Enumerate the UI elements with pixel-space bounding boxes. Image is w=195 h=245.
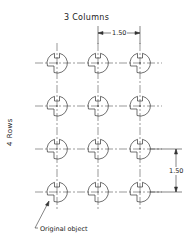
columns-label: 3 Columns bbox=[64, 13, 109, 22]
column-spacing-value: 1.50 bbox=[111, 29, 127, 37]
original-object-leader bbox=[35, 201, 49, 228]
object-grid bbox=[35, 43, 162, 209]
rectangular-array-diagram bbox=[0, 0, 195, 245]
row-spacing-value: 1.50 bbox=[169, 167, 183, 175]
rows-label: 4 Rows bbox=[6, 118, 14, 146]
original-object-label: Original object bbox=[40, 225, 88, 233]
